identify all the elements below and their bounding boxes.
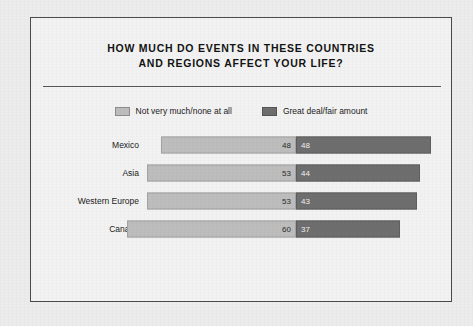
legend-label-not-very-much: Not very much/none at all [136, 106, 232, 116]
bar-value-mexico-right: 48 [301, 141, 310, 149]
chart-title: HOW MUCH DO EVENTS IN THESE COUNTRIES AN… [31, 41, 451, 71]
bar-row-western-europe: Western Europe 53 43 [31, 187, 451, 215]
bar-label-mexico: Mexico [31, 140, 147, 150]
bar-row-asia: Asia 53 44 [31, 159, 451, 187]
bar-segment-asia-left: 53 [147, 165, 296, 182]
legend-item-great-deal: Great deal/fair amount [262, 106, 368, 116]
bar-label-asia: Asia [31, 168, 147, 178]
bar-value-canada-right: 37 [301, 225, 310, 233]
chart-plot-area: Mexico 48 48 Asia 53 44 We [31, 131, 451, 243]
bar-row-mexico: Mexico 48 48 [31, 131, 451, 159]
bar-row-canada: Canada 60 37 [31, 215, 451, 243]
bar-segment-asia-right: 44 [296, 165, 420, 182]
bar-value-canada-left: 60 [282, 225, 291, 233]
bar-segment-mexico-left: 48 [161, 137, 296, 154]
bar-track-canada: 60 37 [147, 215, 451, 243]
bar-segment-western-europe-left: 53 [147, 193, 296, 210]
chart-frame: HOW MUCH DO EVENTS IN THESE COUNTRIES AN… [30, 17, 452, 302]
title-divider-rule [43, 86, 441, 87]
chart-legend: Not very much/none at all Great deal/fai… [31, 106, 451, 116]
bar-value-asia-left: 53 [282, 169, 291, 177]
chart-title-line-1: HOW MUCH DO EVENTS IN THESE COUNTRIES [107, 42, 375, 54]
bar-value-mexico-left: 48 [282, 141, 291, 149]
dark-gray-swatch-icon [262, 107, 277, 116]
bar-segment-western-europe-right: 43 [296, 193, 417, 210]
bar-track-asia: 53 44 [147, 159, 451, 187]
bar-track-mexico: 48 48 [147, 131, 451, 159]
light-gray-swatch-icon [115, 107, 130, 116]
bar-value-western-europe-right: 43 [301, 197, 310, 205]
bar-value-asia-right: 44 [301, 169, 310, 177]
bar-segment-canada-left: 60 [127, 221, 296, 238]
legend-label-great-deal: Great deal/fair amount [283, 106, 368, 116]
bar-track-western-europe: 53 43 [147, 187, 451, 215]
bar-label-western-europe: Western Europe [31, 196, 147, 206]
bar-segment-canada-right: 37 [296, 221, 400, 238]
bar-segment-mexico-right: 48 [296, 137, 431, 154]
chart-title-line-2: AND REGIONS AFFECT YOUR LIFE? [31, 56, 451, 71]
bar-value-western-europe-left: 53 [282, 197, 291, 205]
legend-item-not-very-much: Not very much/none at all [115, 106, 232, 116]
